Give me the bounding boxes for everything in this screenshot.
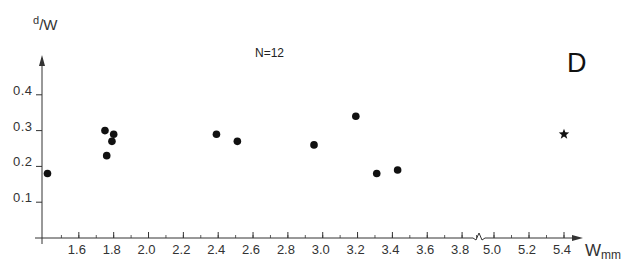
- x-tick-label: 3.8: [451, 242, 469, 257]
- y-label-numerator: d: [33, 14, 39, 26]
- y-label-denominator: W: [43, 16, 57, 33]
- x-tick-label: 1.8: [103, 242, 121, 257]
- x-axis-arrow-icon: [572, 235, 583, 241]
- data-point: [108, 138, 116, 146]
- y-tick-label: 0.3: [13, 119, 33, 134]
- data-point: [373, 170, 381, 178]
- y-tick-label: 0.1: [13, 190, 33, 205]
- data-point: [234, 138, 242, 146]
- y-axis-label: d/W: [33, 14, 57, 33]
- panel-label: D: [567, 48, 587, 79]
- x-tick-label: 2.6: [242, 242, 260, 257]
- data-point: [394, 166, 402, 174]
- x-tick-label: 3.2: [347, 242, 365, 257]
- x-label-subscript: mm: [601, 248, 621, 261]
- x-tick-label: 3.6: [416, 242, 434, 257]
- x-tick-label: 2.0: [138, 242, 156, 257]
- data-point: [44, 170, 52, 178]
- x-tick-label: 5.4: [553, 242, 571, 257]
- x-label-main: W: [585, 241, 601, 260]
- y-axis-arrow-icon: [39, 55, 45, 66]
- data-point: [110, 130, 118, 138]
- x-tick-label: 3.0: [312, 242, 330, 257]
- axis-break-icon: [473, 233, 485, 240]
- x-tick-label: 3.4: [381, 242, 399, 257]
- x-tick-label: 2.4: [207, 242, 225, 257]
- y-tick-label: 0.2: [13, 154, 33, 169]
- y-tick-label: 0.4: [13, 83, 33, 98]
- star-marker-icon: [559, 129, 569, 139]
- data-point: [352, 112, 360, 120]
- x-tick-label: 2.2: [172, 242, 190, 257]
- x-tick-label: 5.0: [483, 242, 501, 257]
- data-point: [310, 141, 318, 149]
- x-tick-label: 5.2: [518, 242, 536, 257]
- data-point: [103, 152, 111, 160]
- x-tick-label: 2.8: [277, 242, 295, 257]
- data-point: [101, 127, 109, 135]
- x-tick-label: 1.6: [68, 242, 86, 257]
- sample-size-annotation: N=12: [255, 46, 284, 60]
- x-axis-label: Wmm: [585, 241, 621, 261]
- data-point: [213, 130, 221, 138]
